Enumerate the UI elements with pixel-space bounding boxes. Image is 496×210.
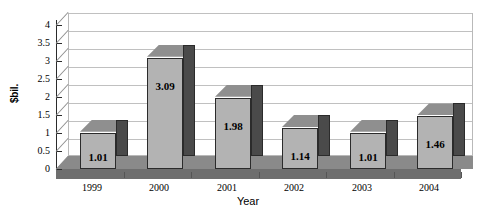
depth-line xyxy=(56,48,69,62)
gridline xyxy=(69,121,472,122)
depth-line xyxy=(56,138,69,152)
x-tick-label: 2002 xyxy=(264,182,324,193)
depth-line xyxy=(56,12,69,26)
bar xyxy=(417,103,465,169)
y-tick-label: 3 xyxy=(20,56,50,66)
bar-front-face xyxy=(215,98,251,169)
x-axis-separator xyxy=(191,172,192,178)
x-axis-separator xyxy=(394,172,395,178)
gridline xyxy=(69,67,472,68)
bar-value-label: 1.01 xyxy=(350,151,386,163)
gridline xyxy=(69,139,472,140)
x-tick-label: 2004 xyxy=(399,182,459,193)
x-tick-label: 2003 xyxy=(332,182,392,193)
plot-area-wall xyxy=(68,13,473,156)
x-axis-separator xyxy=(461,172,462,178)
y-tick-label: 1.5 xyxy=(20,110,50,120)
bar-value-label: 1.98 xyxy=(215,120,251,132)
x-axis-separator xyxy=(124,172,125,178)
y-tick-label: 0.5 xyxy=(20,146,50,156)
x-tick-label: 1999 xyxy=(62,182,122,193)
x-axis-separator xyxy=(326,172,327,178)
gridline xyxy=(69,103,472,104)
bar-chart: $bil. 00.511.522.533.54 1.013.091.981.14… xyxy=(0,0,496,210)
y-tick-label: 3.5 xyxy=(20,38,50,48)
bar-value-label: 1.01 xyxy=(80,151,116,163)
gridline xyxy=(69,85,472,86)
depth-line xyxy=(56,30,69,44)
bar-side-face xyxy=(453,103,465,156)
y-tick-label: 2.5 xyxy=(20,74,50,84)
bar-value-label: 1.46 xyxy=(417,138,453,150)
bar-side-face xyxy=(318,115,330,156)
depth-line xyxy=(56,120,69,134)
x-axis-title: Year xyxy=(0,195,496,207)
y-tick-label: 4 xyxy=(20,20,50,30)
bar-front-face xyxy=(282,128,318,169)
bar-side-face xyxy=(386,120,398,156)
gridline xyxy=(69,31,472,32)
bar-value-label: 3.09 xyxy=(147,80,183,92)
depth-line xyxy=(56,102,69,116)
bar-side-face xyxy=(251,85,263,156)
x-tick-label: 2000 xyxy=(129,182,189,193)
bar xyxy=(147,45,195,169)
y-axis-title: $bil. xyxy=(9,64,20,124)
bar-side-face xyxy=(183,45,195,156)
gridline xyxy=(69,49,472,50)
depth-line xyxy=(56,84,69,98)
x-axis-separator xyxy=(259,172,260,178)
bar-front-face xyxy=(147,58,183,169)
bar-value-label: 1.14 xyxy=(282,150,318,162)
y-tick-label: 1 xyxy=(20,128,50,138)
x-tick-label: 2001 xyxy=(197,182,257,193)
y-tick-label: 2 xyxy=(20,92,50,102)
bar-side-face xyxy=(116,120,128,156)
gridline xyxy=(69,13,472,14)
y-tick-label: 0 xyxy=(20,164,50,174)
depth-line xyxy=(56,66,69,80)
